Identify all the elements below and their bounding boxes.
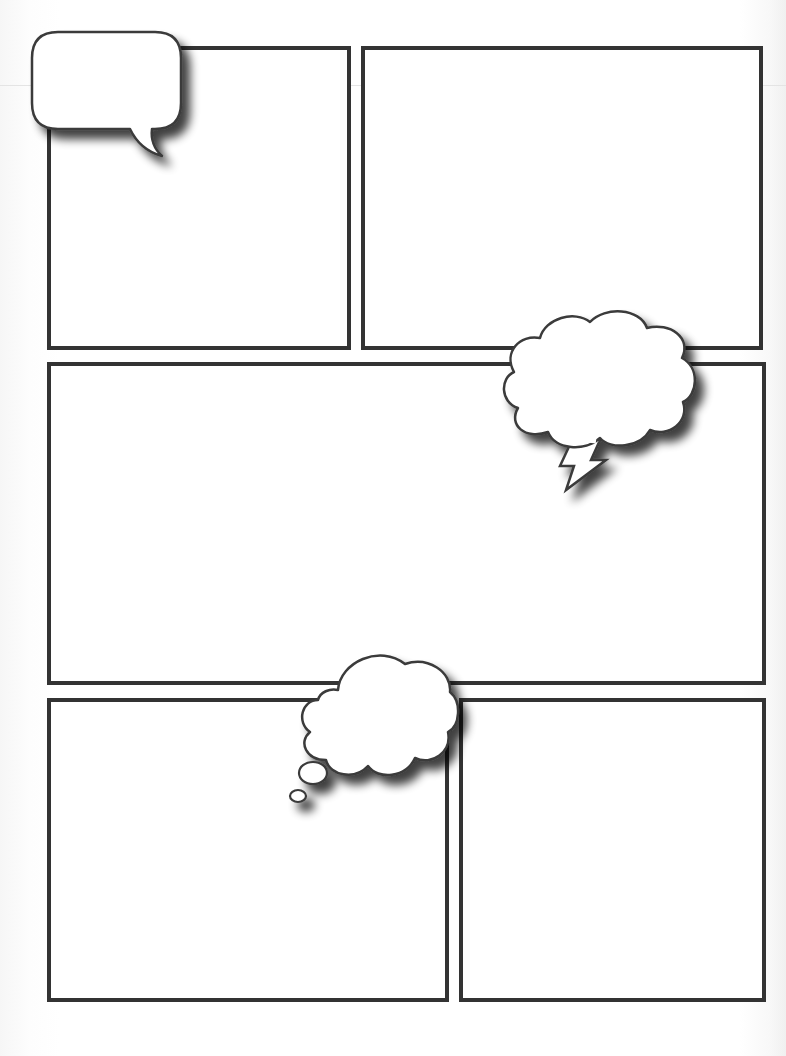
thought-dot-large <box>299 762 327 784</box>
thought-dot-small <box>290 790 306 802</box>
comic-page <box>0 0 786 1056</box>
panel-bottom-right[interactable] <box>459 698 766 1002</box>
panel-top-right[interactable] <box>361 46 763 350</box>
